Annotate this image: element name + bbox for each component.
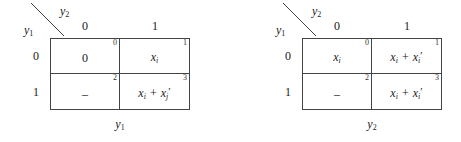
cell-value: – [82, 88, 88, 100]
cell-index: 0 [365, 39, 369, 48]
cell-value: 0 [82, 52, 88, 64]
cell-value: xi + xj′ [138, 86, 170, 101]
kmap-grid: 0 0 1 xi 2 – 3 xi + xj′ [50, 38, 190, 110]
term-prime: ′ [420, 49, 422, 61]
cell-index: 1 [435, 39, 439, 48]
cell-index: 3 [183, 74, 187, 83]
term-subscript: i [396, 57, 398, 66]
term-subscript: i [339, 56, 341, 65]
row-header-0: 0 [26, 38, 46, 74]
corner-top-variable-sub: 2 [65, 10, 69, 19]
cell-value: xi [333, 51, 341, 65]
plus-operator: + [147, 86, 160, 100]
kmap-cell: 0 0 [51, 39, 120, 74]
column-header-1: 1 [120, 20, 190, 32]
column-headers: 0 1 [50, 20, 190, 32]
right-kmap: y2 y1 0 1 0 1 0 xi 1 xi + xi′ 2 – [260, 0, 460, 142]
row-headers: 0 1 [278, 38, 298, 110]
column-header-0: 0 [50, 20, 120, 32]
corner-top-variable: y2 [312, 5, 321, 19]
cell-index: 2 [365, 74, 369, 83]
term-prime: ′ [420, 85, 422, 97]
corner-top-variable-sub: 2 [317, 10, 321, 19]
row-header-1: 1 [26, 74, 46, 110]
row-headers: 0 1 [26, 38, 46, 110]
kmap-grid: 0 xi 1 xi + xi′ 2 – 3 xi + xi′ [302, 38, 442, 110]
cell-value: – [334, 88, 340, 100]
cell-index: 3 [435, 74, 439, 83]
bottom-axis-label-sub: 2 [373, 123, 377, 132]
karnaugh-map-figure: y2 y1 0 1 0 1 0 0 1 xi 2 – [0, 0, 461, 142]
column-header-1: 1 [372, 20, 442, 32]
cell-value: xi [151, 51, 159, 65]
corner-side-variable: y1 [276, 24, 285, 38]
kmap-cell: 0 xi [303, 39, 372, 74]
cell-index: 2 [113, 74, 117, 83]
cell-value: xi + xi′ [390, 50, 422, 65]
column-header-0: 0 [302, 20, 372, 32]
cell-index: 1 [183, 39, 187, 48]
term-subscript: i [144, 92, 146, 101]
kmap-cell: 3 xi + xi′ [372, 74, 441, 109]
plus-operator: + [399, 50, 412, 64]
row-header-1: 1 [278, 74, 298, 110]
term-prime: ′ [168, 85, 170, 97]
kmap-cell: 2 – [51, 74, 120, 109]
bottom-axis-label: y1 [50, 118, 190, 132]
corner-side-variable-sub: 1 [29, 29, 33, 38]
kmap-cell: 2 – [303, 74, 372, 109]
term-subscript: i [156, 56, 158, 65]
corner-side-variable: y1 [24, 24, 33, 38]
cell-index: 0 [113, 39, 117, 48]
row-header-0: 0 [278, 38, 298, 74]
corner-side-variable-sub: 1 [281, 29, 285, 38]
kmap-cell: 3 xi + xj′ [120, 74, 189, 109]
cell-value: xi + xi′ [390, 86, 422, 101]
kmap-cell: 1 xi + xi′ [372, 39, 441, 74]
column-headers: 0 1 [302, 20, 442, 32]
plus-operator: + [399, 86, 412, 100]
term-subscript: i [396, 92, 398, 101]
corner-top-variable: y2 [60, 5, 69, 19]
left-kmap: y2 y1 0 1 0 1 0 0 1 xi 2 – [8, 0, 208, 142]
bottom-axis-label-sub: 1 [121, 123, 125, 132]
kmap-cell: 1 xi [120, 39, 189, 74]
bottom-axis-label: y2 [302, 118, 442, 132]
